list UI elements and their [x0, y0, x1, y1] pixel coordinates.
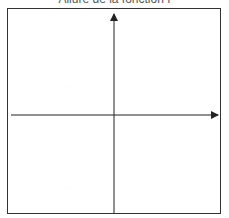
- axes: [0, 0, 229, 218]
- faint-mark: ·: [66, 84, 68, 90]
- faint-mark: ·: [66, 185, 68, 191]
